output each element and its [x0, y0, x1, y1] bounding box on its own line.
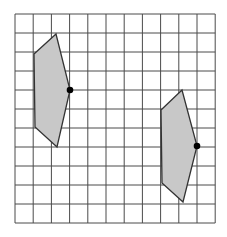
left-marked-vertex-dot — [67, 87, 74, 94]
left-pentagon — [34, 34, 70, 147]
grid-diagram — [0, 0, 227, 237]
right-marked-vertex-dot — [194, 143, 201, 150]
